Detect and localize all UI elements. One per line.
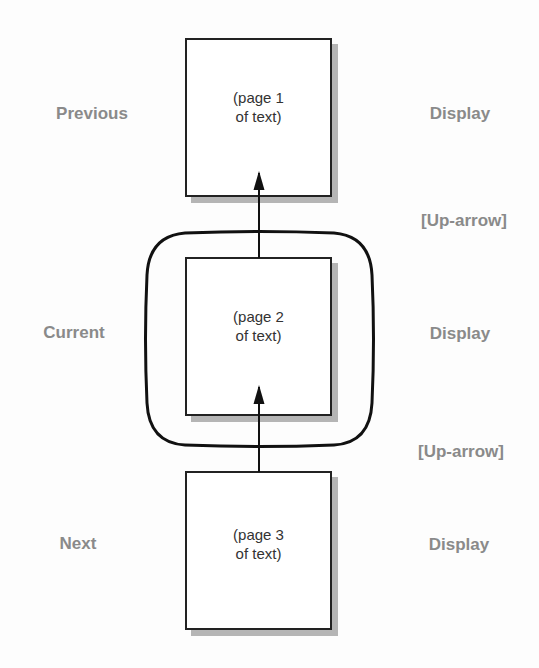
page-box-text-line2: of text) [187,544,330,563]
page-box-text-line2: of text) [187,326,330,345]
label-next: Next [28,534,128,554]
page-box-next: (page 3 of text) [185,471,332,630]
label-display-current: Display [410,324,510,344]
label-current: Current [24,323,124,343]
label-display-next: Display [409,535,509,555]
page-box-text-line1: (page 2 [187,307,330,326]
page-box-previous: (page 1 of text) [185,38,332,197]
page-box-text: (page 1 of text) [187,88,330,126]
label-transition-up-arrow-1: [Up-arrow] [409,211,519,231]
page-box-text: (page 3 of text) [187,525,330,563]
page-box-text-line1: (page 3 [187,525,330,544]
label-display-previous: Display [410,104,510,124]
page-box-text-line1: (page 1 [187,88,330,107]
page-box-current: (page 2 of text) [185,257,332,416]
label-transition-up-arrow-2: [Up-arrow] [406,442,516,462]
page-box-text-line2: of text) [187,107,330,126]
page-box-text: (page 2 of text) [187,307,330,345]
label-previous: Previous [42,104,142,124]
